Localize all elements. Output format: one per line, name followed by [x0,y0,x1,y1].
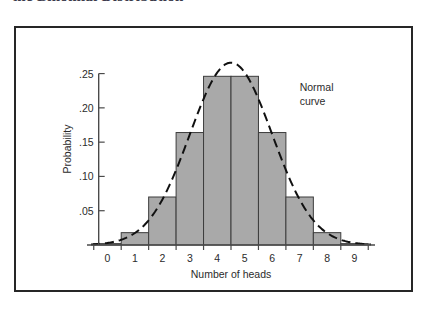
binomial-histogram-chart: .05.10.15.20.250123456789Number of heads… [16,28,411,290]
y-tick-label-.20: .20 [79,102,94,114]
normal-curve-label-line2: curve [300,95,326,107]
figure-caption: the Binomial Distribution [12,0,184,5]
y-tick-label-.05: .05 [79,205,94,217]
x-tick-label-7: 7 [297,252,303,264]
histogram-bar-7 [286,197,313,245]
x-tick-label-9: 9 [352,252,358,264]
figure-box: .05.10.15.20.250123456789Number of heads… [14,26,413,292]
x-tick-label-3: 3 [187,252,193,264]
y-tick-label-.10: .10 [79,170,94,182]
y-tick-label-.25: .25 [79,68,94,80]
histogram-bar-4 [204,76,231,245]
x-tick-label-4: 4 [214,252,220,264]
histogram-bar-5 [231,76,258,245]
histogram-bar-2 [149,197,176,245]
y-tick-label-.15: .15 [79,136,94,148]
x-tick-label-8: 8 [324,252,330,264]
x-axis-title: Number of heads [191,268,272,280]
y-axis-title: Probability [61,124,73,174]
x-tick-label-2: 2 [159,252,165,264]
histogram-bar-3 [176,133,203,245]
x-tick-label-5: 5 [242,252,248,264]
normal-curve-label-line1: Normal [300,81,334,93]
caption-strip: the Binomial Distribution [0,0,427,8]
histogram-bar-6 [258,133,285,245]
x-tick-label-1: 1 [132,252,138,264]
x-tick-label-6: 6 [269,252,275,264]
x-tick-label-0: 0 [105,252,111,264]
